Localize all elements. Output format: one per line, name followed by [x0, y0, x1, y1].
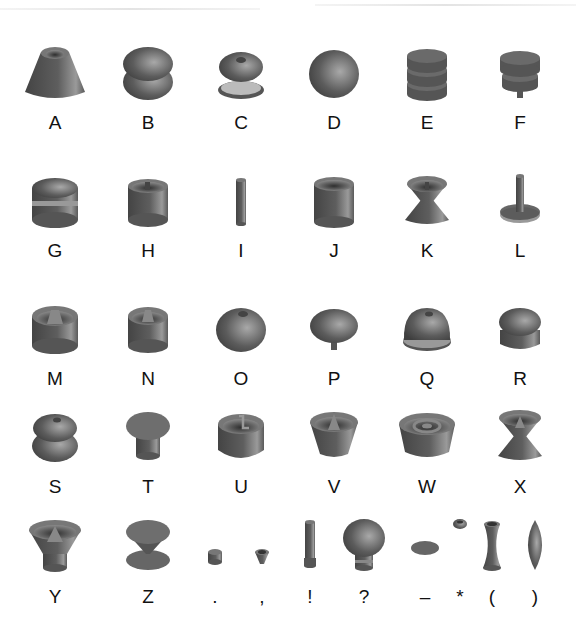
shape-label: M [15, 368, 95, 390]
shape-cell-G: G [15, 168, 95, 278]
shape-label: A [15, 112, 95, 134]
shape-cell-U: U [201, 404, 281, 514]
shape-cell-close-paren: ) [495, 514, 575, 624]
shape-label: B [108, 112, 188, 134]
shape-label: Y [15, 586, 95, 608]
rod-on-disk-icon [480, 168, 560, 238]
shape-cell-Q: Q [387, 296, 467, 406]
shape-cell-L: L [480, 168, 560, 278]
hollow-cylinder-post-icon [108, 168, 188, 238]
hollow-cylinder-cone-icon [15, 296, 95, 366]
three-disks-icon [387, 40, 467, 110]
shape-cell-O: O [201, 296, 281, 406]
disks-with-peg-icon [480, 40, 560, 110]
shape-label: Q [387, 368, 467, 390]
shape-label: ) [495, 586, 575, 608]
shape-cell-R: R [480, 296, 560, 406]
shape-cell-M: M [15, 296, 95, 406]
shape-cell-X: X [480, 404, 560, 514]
banded-cylinder-icon [15, 168, 95, 238]
shape-cell-D: D [294, 40, 374, 150]
shape-label: R [480, 368, 560, 390]
double-torus-icon [15, 404, 95, 474]
shape-label: E [387, 112, 467, 134]
mushroom-cap-icon [294, 296, 374, 366]
shape-cell-N: N [108, 296, 188, 406]
stacked-disks-icon [108, 40, 188, 110]
shape-label: K [387, 240, 467, 262]
shape-label: L [480, 240, 560, 262]
shape-label: F [480, 112, 560, 134]
shape-cell-K: K [387, 168, 467, 278]
shape-cell-I: I [201, 168, 281, 278]
shape-cell-P: P [294, 296, 374, 406]
shape-label: X [480, 476, 560, 498]
hourglass-hollow-icon [387, 168, 467, 238]
shape-cell-V: V [294, 404, 374, 514]
shape-label: H [108, 240, 188, 262]
cup-nested-rings-icon [387, 404, 467, 474]
shape-cell-F: F [480, 40, 560, 150]
thin-rod-icon [201, 168, 281, 238]
shape-label: D [294, 112, 374, 134]
spindle-icon [495, 514, 575, 584]
shape-label: N [108, 368, 188, 390]
shape-cell-A: A [15, 40, 95, 150]
cone-cup-spike-icon [294, 404, 374, 474]
dome-on-base-icon [387, 296, 467, 366]
shape-label: W [387, 476, 467, 498]
torus-dish-icon [201, 40, 281, 110]
hollow-cup-icon [294, 168, 374, 238]
shape-cell-E: E [387, 40, 467, 150]
shape-label: J [294, 240, 374, 262]
shape-cell-C: C [201, 40, 281, 150]
hollow-cylinder-hook-icon [201, 404, 281, 474]
shape-label: P [294, 368, 374, 390]
shape-cell-B: B [108, 40, 188, 150]
shape-label: S [15, 476, 95, 498]
shape-cell-T: T [108, 404, 188, 514]
top-divider-right [315, 4, 576, 6]
shape-label: C [201, 112, 281, 134]
shape-label: T [108, 476, 188, 498]
shape-cell-W: W [387, 404, 467, 514]
disk-on-cylinder-icon [108, 404, 188, 474]
shape-cell-J: J [294, 168, 374, 278]
shape-label: U [201, 476, 281, 498]
shape-cell-S: S [15, 404, 95, 514]
shape-label: I [201, 240, 281, 262]
funnel-cup-icon [15, 514, 95, 584]
hollow-cylinder-small-cone-icon [108, 296, 188, 366]
hourglass-cup-cone-icon [480, 404, 560, 474]
shape-label: V [294, 476, 374, 498]
dimpled-sphere-icon [201, 296, 281, 366]
rounded-stack-icon [480, 296, 560, 366]
shape-cell-H: H [108, 168, 188, 278]
shape-label: G [15, 240, 95, 262]
sphere-icon [294, 40, 374, 110]
shape-cell-Y: Y [15, 514, 95, 624]
shape-label: O [201, 368, 281, 390]
top-divider-left [0, 8, 260, 10]
truncated-cone-icon [15, 40, 95, 110]
